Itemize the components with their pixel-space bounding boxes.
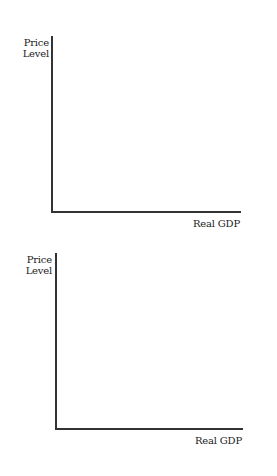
y-axis-label-line1: Price (19, 254, 52, 265)
y-axis-label: Price Level (19, 254, 52, 276)
y-axis-label-line2: Level (19, 265, 52, 276)
x-axis-label: Real GDP (193, 218, 240, 229)
x-axis (55, 428, 243, 430)
x-axis-label: Real GDP (195, 435, 242, 446)
y-axis-label-line2: Level (16, 48, 49, 59)
x-axis (51, 211, 241, 213)
y-axis (55, 253, 57, 430)
y-axis (51, 36, 53, 213)
y-axis-label: Price Level (16, 37, 49, 59)
y-axis-label-line1: Price (16, 37, 49, 48)
